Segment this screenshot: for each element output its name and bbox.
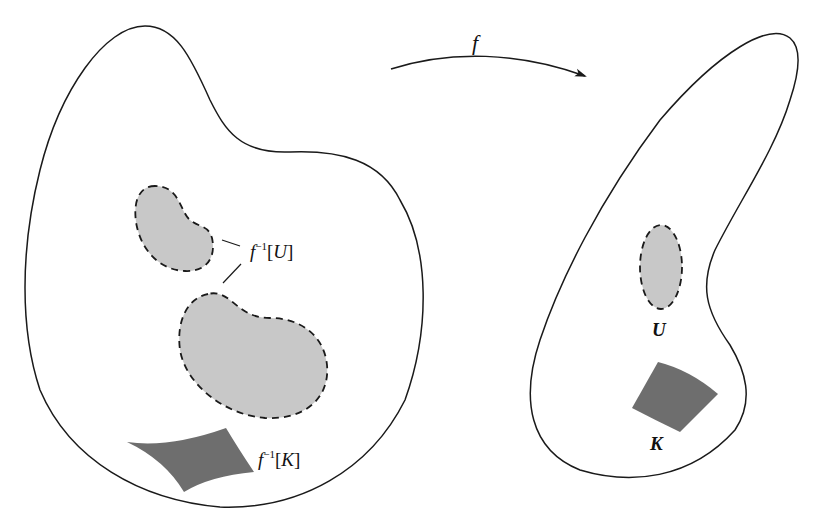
leader-line-2 xyxy=(223,264,241,283)
preimage-compact-set xyxy=(127,428,254,492)
preimage-compact-label: f−1[K] xyxy=(258,448,300,470)
map-label: f xyxy=(472,30,481,55)
continuous-map-diagram: f f−1[U] f−1[K] U K xyxy=(0,0,814,520)
compact-set-K xyxy=(632,362,718,432)
preimage-open-label: f−1[U] xyxy=(250,240,293,262)
preimage-open-set-part-2 xyxy=(179,293,327,418)
open-set-label: U xyxy=(652,319,667,340)
leader-line-1 xyxy=(222,240,240,246)
preimage-open-set-part-1 xyxy=(135,186,213,271)
compact-set-label: K xyxy=(649,433,664,454)
map-arrow xyxy=(391,56,585,76)
open-set-U xyxy=(640,225,682,309)
